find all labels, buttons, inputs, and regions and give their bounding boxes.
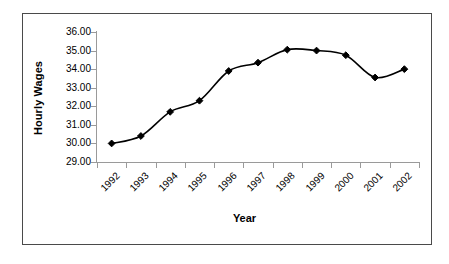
x-axis-tick-mark <box>185 163 186 168</box>
x-axis-tick-label: 1993 <box>125 170 151 196</box>
x-axis-tick-label: 1999 <box>300 170 326 196</box>
x-axis-tick-mark <box>214 163 215 168</box>
y-axis-tick-mark <box>91 106 96 107</box>
x-axis-tick-label: 1996 <box>212 170 238 196</box>
y-axis-tick-mark <box>91 51 96 52</box>
line-series-svg <box>97 32 419 162</box>
x-axis-tick-mark <box>126 163 127 168</box>
x-axis-tick-mark <box>390 163 391 168</box>
x-axis-tick-label: 1992 <box>95 170 121 196</box>
x-axis-tick-mark <box>156 163 157 168</box>
y-axis-tick-label: 36.00 <box>46 27 91 37</box>
x-axis-tick-labels: 1992199319941995199619971998199920002001… <box>97 170 419 210</box>
y-axis-tick-label: 30.00 <box>46 138 91 148</box>
x-axis-tick-label: 2002 <box>388 170 414 196</box>
data-point-marker <box>342 52 349 59</box>
y-axis-tick-label: 35.00 <box>46 46 91 56</box>
y-axis-tick-label: 33.00 <box>46 83 91 93</box>
data-point-marker <box>108 140 115 147</box>
x-axis-tick-mark <box>331 163 332 168</box>
x-axis-line <box>96 162 420 163</box>
y-axis-tick-label: 29.00 <box>46 157 91 167</box>
x-axis-tick-mark <box>243 163 244 168</box>
data-point-marker <box>313 47 320 54</box>
y-axis-tick-label: 34.00 <box>46 64 91 74</box>
x-axis-tick-mark <box>97 163 98 168</box>
data-point-marker <box>284 46 291 53</box>
y-axis-tick-mark <box>91 69 96 70</box>
x-axis-tick-label: 1998 <box>271 170 297 196</box>
x-axis-tick-mark <box>273 163 274 168</box>
y-axis-tick-label: 31.00 <box>46 120 91 130</box>
data-point-marker <box>372 74 379 81</box>
data-point-marker <box>401 66 408 73</box>
y-axis-title: Hourly Wages <box>28 32 48 164</box>
line-series-markers <box>108 46 408 147</box>
x-axis-tick-mark <box>419 163 420 168</box>
y-axis-tick-mark <box>91 32 96 33</box>
data-point-marker <box>255 59 262 66</box>
y-axis-tick-labels: 36.0035.0034.0033.0032.0031.0030.0029.00 <box>48 32 93 162</box>
y-axis-title-label: Hourly Wages <box>32 61 44 135</box>
plot-area <box>97 32 419 162</box>
y-axis-tick-mark <box>91 88 96 89</box>
x-axis-tick-label: 2000 <box>329 170 355 196</box>
y-axis-tick-label: 32.00 <box>46 101 91 111</box>
x-axis-tick-label: 1994 <box>154 170 180 196</box>
x-axis-tick-mark <box>302 163 303 168</box>
x-axis-tick-label: 2001 <box>359 170 385 196</box>
x-axis-tick-mark <box>360 163 361 168</box>
x-axis-tick-label: 1997 <box>242 170 268 196</box>
x-axis-tick-label: 1995 <box>183 170 209 196</box>
y-axis-tick-mark <box>91 162 96 163</box>
y-axis-tick-mark <box>91 143 96 144</box>
x-axis-title: Year <box>0 212 449 224</box>
y-axis-tick-mark <box>91 125 96 126</box>
